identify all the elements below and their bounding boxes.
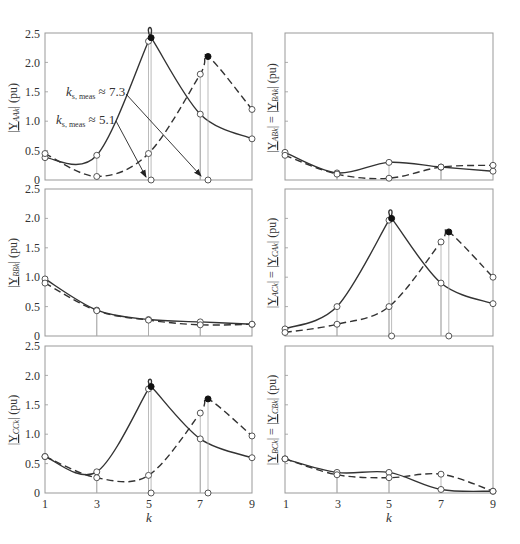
data-point bbox=[490, 162, 496, 168]
y-axis-label-panel-3: |YBBk| (pu) bbox=[6, 238, 21, 288]
xtick: 9 bbox=[490, 497, 496, 511]
chart-panel-bottom-left bbox=[42, 346, 255, 496]
plot-frame bbox=[45, 189, 252, 336]
ytick: 1.0 bbox=[25, 270, 40, 284]
svg-text:ks, meas ≈ 5.1: ks, meas ≈ 5.1 bbox=[56, 112, 115, 129]
data-point bbox=[282, 329, 288, 335]
resonance-marker bbox=[389, 333, 395, 339]
data-point bbox=[386, 475, 392, 481]
x-ticks-right: 1 3 5 7 9 k bbox=[283, 497, 496, 525]
y-ticks-panel-3: 0 0.5 1.0 1.5 2.0 2.5 bbox=[25, 182, 40, 343]
data-point bbox=[386, 175, 392, 181]
data-point bbox=[490, 488, 496, 494]
data-point bbox=[438, 486, 444, 492]
resonance-marker bbox=[205, 177, 211, 183]
data-point bbox=[197, 71, 203, 77]
data-point bbox=[282, 152, 288, 158]
data-point bbox=[42, 151, 48, 157]
peak-point bbox=[389, 215, 395, 221]
peak-point bbox=[205, 54, 211, 60]
chart-panel-top-left bbox=[42, 28, 255, 183]
y-ticks-panel-5: 0 0.5 1.0 1.5 2.0 2.5 bbox=[25, 339, 40, 500]
xtick: 7 bbox=[197, 497, 203, 511]
data-point bbox=[334, 304, 340, 310]
data-point bbox=[334, 321, 340, 327]
ytick: 0.5 bbox=[25, 457, 40, 471]
ytick: 0.5 bbox=[25, 144, 40, 158]
ytick: 1.5 bbox=[25, 241, 40, 255]
data-point bbox=[42, 280, 48, 286]
ytick: 2.0 bbox=[25, 211, 40, 225]
y-axis-label-panel-1: |YAAk| (pu) bbox=[6, 83, 21, 133]
y-axis-label-panel-4: |YACk| = |YCAk| (pu) bbox=[265, 218, 280, 308]
x-ticks-left: 1 3 5 7 9 k bbox=[42, 497, 255, 525]
data-point bbox=[438, 280, 444, 286]
xtick: 5 bbox=[386, 497, 392, 511]
ytick: 1.0 bbox=[25, 114, 40, 128]
ytick: 1.5 bbox=[25, 398, 40, 412]
y-ticks-panel-1: 0 0.5 1.0 1.5 2.0 2.5 bbox=[25, 27, 40, 187]
plot-frame bbox=[285, 33, 493, 180]
data-point bbox=[249, 455, 255, 461]
svg-text:ks, meas ≈ 7.3: ks, meas ≈ 7.3 bbox=[66, 84, 125, 101]
data-point bbox=[146, 151, 152, 157]
data-point bbox=[386, 304, 392, 310]
arrow-icon bbox=[116, 121, 146, 177]
data-point bbox=[94, 152, 100, 158]
peak-point bbox=[148, 384, 154, 390]
data-point bbox=[334, 171, 340, 177]
ytick: 1.0 bbox=[25, 427, 40, 441]
data-point bbox=[249, 106, 255, 112]
chart-panel-middle-right bbox=[282, 189, 496, 339]
data-point bbox=[197, 111, 203, 117]
data-point bbox=[94, 475, 100, 481]
xtick: 1 bbox=[42, 497, 48, 511]
data-point bbox=[94, 308, 100, 314]
data-point bbox=[438, 164, 444, 170]
data-point bbox=[386, 159, 392, 165]
data-point bbox=[249, 321, 255, 327]
xtick: 7 bbox=[438, 497, 444, 511]
data-point bbox=[94, 469, 100, 475]
peak-point bbox=[148, 35, 154, 41]
ytick: 2.0 bbox=[25, 56, 40, 70]
figure: 0 0.5 1.0 1.5 2.0 2.5 0 0.5 1.0 1.5 2.0 … bbox=[0, 0, 520, 544]
data-point bbox=[282, 456, 288, 462]
ytick: 2.0 bbox=[25, 369, 40, 383]
xtick: 1 bbox=[283, 497, 289, 511]
y-axis-label-panel-2: |YABk| = |YBAk| (pu) bbox=[265, 63, 280, 152]
peak-point bbox=[446, 229, 452, 235]
peak-point bbox=[205, 396, 211, 402]
resonance-marker bbox=[148, 177, 154, 183]
data-point bbox=[146, 317, 152, 323]
data-point bbox=[197, 322, 203, 328]
ytick: 2.5 bbox=[25, 339, 40, 353]
xtick: 9 bbox=[249, 497, 255, 511]
data-point bbox=[197, 436, 203, 442]
data-point bbox=[438, 239, 444, 245]
ytick: 2.5 bbox=[25, 182, 40, 196]
ytick: 0.5 bbox=[25, 300, 40, 314]
ytick: 1.5 bbox=[25, 85, 40, 99]
data-point bbox=[94, 173, 100, 179]
chart-panel-middle-left bbox=[42, 189, 255, 336]
chart-panel-bottom-right bbox=[282, 346, 496, 494]
xtick: 5 bbox=[146, 497, 152, 511]
ytick: 0 bbox=[34, 486, 40, 500]
y-axis-label-panel-5: |YCCk| (pu) bbox=[6, 395, 21, 446]
data-point bbox=[490, 301, 496, 307]
xtick: 3 bbox=[335, 497, 341, 511]
data-point bbox=[249, 136, 255, 142]
resonance-marker bbox=[205, 490, 211, 496]
y-axis-label-panel-6: |YBCk| = |YCBk| (pu) bbox=[265, 375, 280, 465]
xtick: 3 bbox=[94, 497, 100, 511]
ytick: 2.5 bbox=[25, 27, 40, 41]
x-axis-label: k bbox=[386, 510, 392, 525]
data-point bbox=[249, 433, 255, 439]
data-point bbox=[334, 472, 340, 478]
data-point bbox=[197, 410, 203, 416]
chart-panel-top-right bbox=[282, 33, 496, 181]
resonance-marker bbox=[446, 333, 452, 339]
resonance-marker bbox=[148, 490, 154, 496]
data-point bbox=[146, 472, 152, 478]
